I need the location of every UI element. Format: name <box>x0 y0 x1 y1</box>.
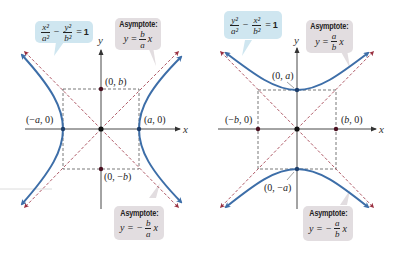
eq-term: y = − <box>120 223 143 233</box>
leader-line <box>287 172 294 180</box>
vertex-point <box>295 167 299 171</box>
point-label-neg-b-0: (−b, 0) <box>225 115 252 125</box>
label-part: (− <box>225 114 234 125</box>
hyperbola-branch <box>297 169 368 207</box>
eq-term: a² <box>42 33 49 43</box>
label-part: (− <box>26 114 35 125</box>
point-label-b-0: (b, 0) <box>341 115 363 125</box>
eq-term: 1 <box>84 28 89 37</box>
eq-term: y² <box>230 15 239 26</box>
eq-term: a <box>334 218 341 229</box>
equation-callout-right: y²a² − x²b² = 1 <box>224 11 282 39</box>
hyperbola-branch <box>297 53 368 90</box>
co-vertex-point <box>256 127 260 131</box>
co-vertex-point <box>99 167 103 171</box>
y-axis-label: y <box>98 35 103 46</box>
eq-term: x <box>342 224 346 234</box>
point-label-neg-a-0: (−a, 0) <box>26 115 53 125</box>
label-part: (0, − <box>104 171 123 182</box>
eq-term: x <box>148 34 152 44</box>
x-axis-label: x <box>379 124 384 135</box>
label-part: ) <box>123 76 126 87</box>
eq-term: y² <box>63 22 72 33</box>
y-axis-label: y <box>294 35 299 46</box>
point-label-0-a: (0, a) <box>272 71 294 81</box>
eq-term: b² <box>64 33 71 43</box>
label-part: ) <box>128 171 131 182</box>
eq-term: b <box>332 42 337 52</box>
eq-term: b <box>335 229 340 239</box>
label-part: (0, <box>105 76 118 87</box>
co-vertex-point <box>334 127 338 131</box>
point-label-a-0: (a, 0) <box>144 115 166 125</box>
eq-term: x <box>339 37 343 47</box>
asymptote-callout-right-neg: Asymptote: y = − ab x <box>303 206 353 241</box>
label-part: , 0) <box>40 114 53 125</box>
vertex-point <box>61 127 65 131</box>
asymptote-title: Asymptote: <box>309 208 347 218</box>
eq-op: = <box>76 27 82 37</box>
asymptote-title: Asymptote: <box>119 19 157 29</box>
co-vertex-point <box>99 87 103 91</box>
eq-callout-tail <box>54 42 64 56</box>
asymptote-callout-left-pos: Asymptote: y = ba x <box>115 18 161 50</box>
label-part: ) <box>288 182 291 193</box>
eq-term: 1 <box>273 21 278 30</box>
hyperbola-branch <box>139 129 181 202</box>
eq-term: b <box>145 218 152 229</box>
eq-term: a <box>331 31 338 42</box>
asymptote-callout-right-pos: Asymptote: y = ab x <box>306 20 353 53</box>
hyperbola-branch <box>22 129 63 204</box>
eq-op: − <box>243 20 249 30</box>
eq-term: x <box>153 223 157 233</box>
label-part: , 0) <box>349 114 362 125</box>
eq-term: a² <box>231 26 238 36</box>
point-label-0-neg-a: (0, −a) <box>264 183 291 193</box>
asymptote-line <box>297 129 373 207</box>
leader-line <box>287 82 294 88</box>
asymptote-callout-left-neg: Asymptote: y = − ba x <box>114 206 164 240</box>
vertex-point <box>295 88 299 92</box>
center-point <box>294 126 299 131</box>
asymptote-title: Asymptote: <box>120 208 158 218</box>
eq-callout-tail <box>242 40 252 56</box>
eq-term: y = <box>315 37 329 47</box>
label-part: , 0) <box>239 114 252 125</box>
label-part: ) <box>290 70 293 81</box>
center-point <box>98 126 103 131</box>
label-part: (0, <box>272 70 285 81</box>
eq-term: a <box>146 229 151 239</box>
vertex-point <box>137 127 141 131</box>
eq-term: b <box>139 29 146 40</box>
eq-term: b² <box>253 26 260 36</box>
label-part: (0, − <box>264 182 283 193</box>
x-axis-label: x <box>183 124 188 135</box>
point-label-0-b: (0, b) <box>105 77 127 87</box>
asym-callout-tail <box>149 183 160 198</box>
eq-op: − <box>54 27 60 37</box>
asymptote-title: Asymptote: <box>310 21 348 31</box>
label-part: , 0) <box>152 114 165 125</box>
point-label-0-neg-b: (0, −b) <box>104 172 131 182</box>
eq-term: y = <box>124 34 138 44</box>
eq-op: = <box>265 20 271 30</box>
asymptote-line <box>221 129 297 207</box>
equation-callout-left: x²a² − y²b² = 1 <box>35 21 93 43</box>
eq-term: y = − <box>309 224 332 234</box>
eq-term: a <box>140 40 145 50</box>
eq-term: x² <box>41 22 50 33</box>
eq-term: x² <box>252 15 261 26</box>
